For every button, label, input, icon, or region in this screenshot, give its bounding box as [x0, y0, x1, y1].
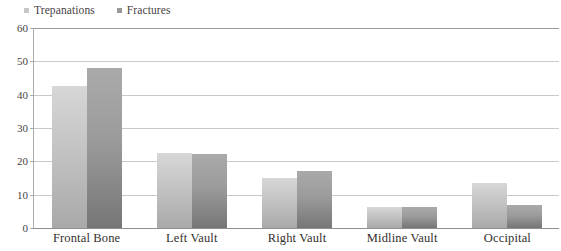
bar-group	[244, 28, 349, 228]
chart-legend: TrepanationsFractures	[24, 2, 171, 18]
y-axis-tick-label: 60	[17, 22, 28, 34]
y-axis-tick-label: 0	[23, 222, 29, 234]
bar-groups	[34, 28, 559, 228]
bar[interactable]	[367, 207, 402, 228]
legend-swatch-icon	[24, 8, 29, 13]
y-axis-tick-label: 20	[17, 155, 28, 167]
bar-group	[349, 28, 454, 228]
y-axis-tick-mark	[30, 28, 33, 29]
legend-label: Fractures	[127, 4, 171, 17]
bar[interactable]	[52, 86, 87, 228]
bar[interactable]	[507, 205, 542, 228]
legend-entry[interactable]: Fractures	[117, 4, 171, 17]
bar-chart: TrepanationsFractures 0102030405060 Fron…	[0, 0, 561, 251]
bar-group	[34, 28, 139, 228]
y-axis-tick-mark	[30, 228, 33, 229]
x-axis-label: Left Vault	[139, 230, 244, 246]
x-axis-label: Right Vault	[244, 230, 349, 246]
y-axis-tick-mark	[30, 61, 33, 62]
y-axis-tick-mark	[30, 128, 33, 129]
y-axis-tick-label: 10	[17, 189, 28, 201]
bar-group	[139, 28, 244, 228]
x-axis-label: Occipital	[455, 230, 560, 246]
bar[interactable]	[192, 154, 227, 228]
x-axis-labels: Frontal BoneLeft VaultRight VaultMidline…	[34, 230, 560, 246]
y-axis-tick-mark	[30, 161, 33, 162]
y-axis-tick-mark	[30, 195, 33, 196]
bar-group	[454, 28, 559, 228]
bar[interactable]	[262, 178, 297, 228]
legend-swatch-icon	[117, 8, 122, 13]
y-axis-tick-mark	[30, 95, 33, 96]
gridline	[33, 228, 559, 229]
legend-entry[interactable]: Trepanations	[24, 4, 95, 17]
y-axis-tick-label: 30	[17, 122, 28, 134]
plot-area: 0102030405060	[33, 28, 559, 228]
legend-label: Trepanations	[34, 4, 95, 17]
x-axis-label: Frontal Bone	[34, 230, 139, 246]
bar[interactable]	[402, 207, 437, 228]
bar[interactable]	[297, 171, 332, 228]
x-axis-label: Midline Vault	[350, 230, 455, 246]
bar[interactable]	[157, 153, 192, 228]
bar[interactable]	[472, 183, 507, 228]
bar[interactable]	[87, 68, 122, 228]
y-axis-tick-label: 40	[17, 89, 28, 101]
y-axis-tick-label: 50	[17, 55, 28, 67]
